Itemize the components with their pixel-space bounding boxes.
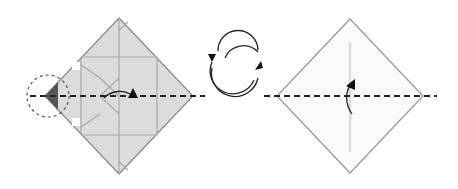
white-flap-top xyxy=(72,62,80,70)
origami-diagram xyxy=(0,0,458,189)
white-flap-bottom xyxy=(72,118,80,126)
step-right-model xyxy=(264,19,437,173)
turn-over-icon xyxy=(208,30,263,96)
step-left-model xyxy=(27,18,205,174)
